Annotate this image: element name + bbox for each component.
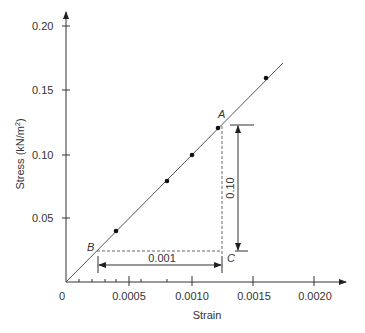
y-axis-title: Stress (kN/m2) xyxy=(14,118,27,189)
x-tick-label: 0.0010 xyxy=(175,290,209,302)
data-point xyxy=(264,76,269,81)
stress-strain-chart: 0.05 0.10 0.15 0.20 0 0.0005 0.0010 0.00… xyxy=(0,0,365,333)
x-tick-label-origin: 0 xyxy=(59,290,65,302)
dx-label: 0.001 xyxy=(148,252,176,264)
data-points xyxy=(114,76,269,234)
x-tick-label: 0.0005 xyxy=(112,290,146,302)
data-point xyxy=(165,179,170,184)
y-tick-label: 0.15 xyxy=(32,84,53,96)
x-axis-title: Strain xyxy=(193,309,222,321)
data-point xyxy=(190,153,195,158)
point-label-A: A xyxy=(218,108,225,120)
dy-label: 0.10 xyxy=(224,177,236,198)
point-label-B: B xyxy=(87,241,94,253)
x-tick-label: 0.0020 xyxy=(298,290,332,302)
plot-area xyxy=(0,0,365,333)
x-tick-label: 0.0015 xyxy=(237,290,271,302)
y-tick-label: 0.10 xyxy=(32,149,53,161)
fit-line xyxy=(66,63,283,282)
data-point xyxy=(216,126,221,131)
y-tick-label: 0.20 xyxy=(32,20,53,32)
y-tick-label: 0.05 xyxy=(32,212,53,224)
data-point xyxy=(114,229,119,234)
x-major-ticks xyxy=(129,276,314,286)
point-label-C: C xyxy=(227,252,235,264)
